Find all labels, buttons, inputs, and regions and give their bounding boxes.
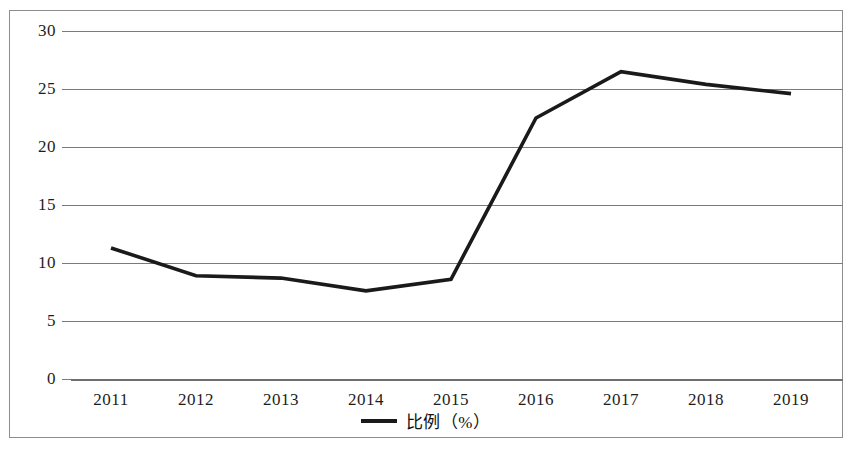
y-tick-stub-15	[62, 205, 71, 206]
y-tick-stub-5	[62, 321, 71, 322]
legend-label-ratio: 比例（%）	[406, 408, 491, 433]
x-tick-label-2017: 2017	[581, 391, 661, 408]
x-tick-label-2012: 2012	[156, 391, 236, 408]
y-tick-label-30: 30	[10, 22, 56, 39]
x-tick-label-2019: 2019	[751, 391, 831, 408]
chart-legend: 比例（%）	[0, 408, 851, 433]
legend-line-swatch	[361, 419, 397, 423]
y-tick-label-10: 10	[10, 254, 56, 271]
y-tick-label-0: 0	[10, 370, 56, 387]
x-tick-label-2014: 2014	[326, 391, 406, 408]
chart-figure: 051015202530 201120122013201420152016201…	[0, 0, 851, 460]
x-tick-label-2011: 2011	[71, 391, 151, 408]
gridline-0	[71, 379, 843, 381]
x-tick-label-2013: 2013	[241, 391, 321, 408]
y-tick-label-15: 15	[10, 196, 56, 213]
y-tick-label-5: 5	[10, 312, 56, 329]
y-tick-stub-30	[62, 31, 71, 32]
series-line-ratio	[111, 72, 791, 291]
y-tick-label-25: 25	[10, 80, 56, 97]
series-line-chart	[71, 31, 843, 379]
y-tick-stub-20	[62, 147, 71, 148]
x-tick-label-2015: 2015	[411, 391, 491, 408]
plot-area	[71, 31, 843, 379]
y-tick-stub-10	[62, 263, 71, 264]
x-tick-label-2018: 2018	[666, 391, 746, 408]
y-tick-stub-0	[62, 379, 71, 380]
x-tick-label-2016: 2016	[496, 391, 576, 408]
y-tick-label-20: 20	[10, 138, 56, 155]
chart-frame: 051015202530 201120122013201420152016201…	[9, 10, 843, 438]
y-tick-stub-25	[62, 89, 71, 90]
